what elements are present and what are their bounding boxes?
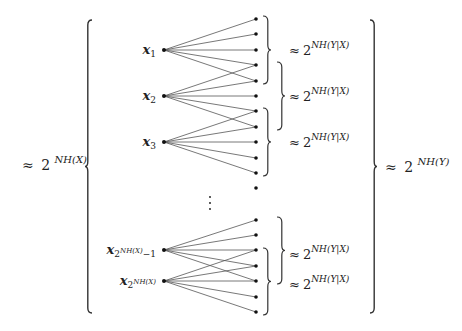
big-right-brace: [370, 20, 377, 313]
input-label: x3: [142, 134, 157, 151]
vertical-ellipsis: [209, 196, 211, 210]
output-dot: [254, 140, 258, 144]
approx-symbol: ≈: [289, 43, 300, 58]
edge: [164, 81, 256, 96]
edge: [164, 19, 256, 50]
edge: [164, 34, 256, 50]
output-sequences: [254, 17, 258, 314]
output-dot: [254, 48, 258, 52]
output-dot: [254, 32, 258, 36]
sub-superscript: NH(X): [132, 278, 156, 286]
base-two: 2: [303, 247, 311, 262]
input-label: x2: [142, 88, 157, 105]
output-dot: [254, 79, 258, 83]
small-right-brace: [263, 16, 271, 84]
edge: [164, 250, 256, 266]
input-codewords: x1x2x3x2NH(X)−1x2NH(X): [106, 42, 166, 290]
approx-symbol: ≈: [289, 277, 300, 292]
output-dot: [254, 248, 258, 252]
small-right-brace: [277, 217, 285, 284]
edge: [164, 50, 256, 65]
subscript-tail: −1: [143, 249, 156, 259]
input-label: x1: [142, 42, 157, 59]
output-dot: [254, 94, 258, 98]
output-dot: [254, 310, 258, 314]
input-dot: [162, 48, 166, 52]
fan-size-label: ≈2NH(Y|X): [289, 274, 350, 292]
exponent: NH(Y|X): [310, 132, 350, 143]
base-two: 2: [41, 157, 50, 173]
codeword-symbol: x: [119, 273, 128, 288]
edge: [164, 65, 256, 96]
exponent: NH(X): [54, 154, 87, 165]
small-right-brace: [263, 108, 271, 176]
typical-set-diagram: x1x2x3x2NH(X)−1x2NH(X) ≈ 2 NH(X) ≈ 2 NH(…: [0, 0, 462, 331]
output-dot: [254, 156, 258, 160]
base-two: 2: [303, 89, 311, 104]
subscript: 2: [150, 95, 156, 105]
base-two: 2: [303, 135, 311, 150]
edge: [164, 235, 256, 250]
input-dot: [162, 279, 166, 283]
output-dot: [254, 17, 258, 21]
ellipsis-dot: [209, 208, 211, 210]
output-dot: [254, 186, 258, 190]
approx-symbol: ≈: [289, 89, 300, 104]
fan-size-label: ≈2NH(Y|X): [289, 244, 350, 262]
approx-symbol: ≈: [289, 247, 300, 262]
base-two: 2: [404, 159, 413, 175]
exponent: NH(Y|X): [310, 86, 350, 97]
edge: [164, 220, 256, 250]
approx-symbol: ≈: [289, 135, 300, 150]
input-dot: [162, 248, 166, 252]
output-dot: [254, 295, 258, 299]
channel-edges: [164, 19, 256, 312]
edge: [164, 50, 256, 81]
fan-size-label: ≈2NH(Y|X): [289, 86, 350, 104]
input-dot: [162, 140, 166, 144]
right-total-label: ≈ 2 NH(Y): [385, 156, 450, 175]
subscript: 1: [150, 49, 156, 59]
codeword-symbol: x: [142, 88, 151, 103]
fan-size-label: ≈2NH(Y|X): [289, 132, 350, 150]
edge: [164, 96, 256, 127]
edge: [164, 281, 256, 312]
edge: [164, 281, 256, 297]
output-dot: [254, 264, 258, 268]
input-label: x2NH(X): [119, 273, 156, 290]
exponent: NH(Y|X): [310, 274, 350, 285]
edge: [164, 111, 256, 142]
output-dot: [254, 63, 258, 67]
edge: [164, 127, 256, 142]
codeword-symbol: x: [106, 242, 115, 257]
small-right-brace: [277, 62, 285, 130]
ellipsis-dot: [209, 202, 211, 204]
base-two: 2: [303, 277, 311, 292]
codeword-symbol: x: [142, 134, 151, 149]
edge: [164, 266, 256, 281]
left-total-label: ≈ 2 NH(X): [22, 154, 87, 173]
edge: [164, 96, 256, 111]
approx-symbol: ≈: [385, 159, 397, 175]
ellipsis-dot: [209, 196, 211, 198]
output-dot: [254, 233, 258, 237]
input-dot: [162, 94, 166, 98]
base-two: 2: [303, 43, 311, 58]
small-right-brace: [263, 248, 271, 315]
edge: [164, 142, 256, 158]
fan-size-label: ≈2NH(Y|X): [289, 40, 350, 58]
subscript: 3: [150, 141, 156, 151]
output-dot: [254, 279, 258, 283]
approx-symbol: ≈: [22, 157, 34, 173]
exponent: NH(Y|X): [310, 40, 350, 51]
output-dot: [254, 109, 258, 113]
exponent: NH(Y): [417, 156, 450, 167]
output-dot: [254, 171, 258, 175]
output-dot: [254, 125, 258, 129]
codeword-symbol: x: [142, 42, 151, 57]
sub-superscript: NH(X): [119, 247, 143, 255]
big-left-brace: [85, 20, 92, 313]
exponent: NH(Y|X): [310, 244, 350, 255]
output-dot: [254, 218, 258, 222]
edge: [164, 142, 256, 173]
